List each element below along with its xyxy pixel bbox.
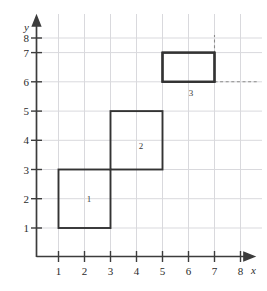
- y-tick-label-4: 4: [24, 135, 30, 146]
- y-tick-label-1: 1: [24, 223, 30, 234]
- y-tick-label-3: 3: [24, 164, 30, 175]
- vertical-gridlines: [59, 14, 241, 257]
- x-tick-label-6: 6: [186, 266, 192, 277]
- x-tick-label-8: 8: [238, 266, 244, 277]
- coordinate-grid-figure: 8 7 6 5 4 3 2 1 1 2 3 4 5 6 7 8 y x 1 2 …: [0, 0, 267, 291]
- y-axis-arrowhead: [33, 16, 41, 26]
- x-tick-label-3: 3: [108, 266, 114, 277]
- y-tick-label-2: 2: [24, 193, 30, 204]
- y-tick-label-5: 5: [24, 106, 30, 117]
- square-label-3: 3: [189, 89, 194, 98]
- y-tick-label-7: 7: [24, 47, 30, 58]
- dashed-guide-lines: [215, 35, 259, 82]
- square-label-1: 1: [87, 194, 92, 203]
- square-label-2: 2: [139, 142, 144, 151]
- x-tick-label-4: 4: [134, 266, 140, 277]
- x-tick-label-5: 5: [160, 266, 166, 277]
- x-tick-label-7: 7: [212, 266, 218, 277]
- x-tick-label-1: 1: [56, 266, 62, 277]
- horizontal-gridlines: [36, 38, 262, 228]
- y-axis-name: y: [24, 22, 29, 33]
- x-tick-label-2: 2: [82, 266, 88, 277]
- x-axis-name: x: [251, 265, 256, 276]
- y-tick-label-8: 8: [24, 33, 30, 44]
- plot-canvas: [0, 0, 267, 291]
- y-tick-label-6: 6: [24, 76, 30, 87]
- x-axis-arrowhead: [244, 253, 254, 261]
